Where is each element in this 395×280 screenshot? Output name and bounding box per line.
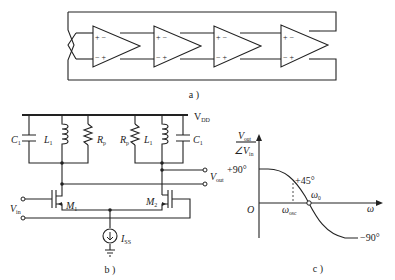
x-axis-arrow-icon (376, 200, 383, 206)
label-plus45: +45° (295, 175, 315, 186)
label-plus90: +90° (227, 164, 247, 175)
l1-left-label: L1 (43, 134, 53, 146)
omega-osc-label: ωosc (282, 204, 297, 216)
amplifier-stage-1: + − − + (93, 26, 140, 67)
vin-terminal-minus (21, 216, 25, 220)
amplifier-stage-3: + − − + (214, 26, 261, 67)
current-direction-arrow-icon (107, 232, 113, 240)
transistor-m1: M1 (21, 185, 110, 212)
m1-label: M1 (65, 200, 77, 212)
transistor-m2: M2 (21, 190, 190, 220)
vdd-label: VDD (194, 111, 211, 123)
stage-1-signs-top: + − (95, 33, 107, 42)
c1-left-label: C1 (11, 134, 21, 146)
c1-right-label: C1 (193, 134, 203, 146)
caption-c: c ) (313, 263, 323, 275)
inductor-l1-left (62, 115, 68, 163)
stage-2-signs-top: + − (156, 33, 168, 42)
l1-right-label: L1 (143, 134, 153, 146)
y-axis-arrow-icon (256, 134, 262, 141)
vout-terminal-minus (203, 182, 207, 186)
ylabel-numerator: Vout (238, 130, 252, 142)
capacitor-c1-right (176, 135, 190, 141)
amplifier-stage-2: + − − + (154, 26, 201, 67)
origin-label: O (247, 204, 254, 215)
vout-terminal-plus (203, 168, 207, 172)
feedback-wire-bottom (68, 59, 336, 80)
rp-left-label: Rp (96, 134, 106, 146)
inductor-l1-right (162, 115, 168, 163)
left-tank: C1 L1 Rp (11, 115, 106, 165)
diagram-canvas: + − − + + − − + + − − + + − − + a ) VDD (0, 0, 395, 280)
stage-3-signs-top: + − (216, 33, 228, 42)
stage-1-signs-bottom: − + (95, 53, 107, 62)
vin-terminal-plus (21, 197, 25, 201)
feedback-wire-top (68, 12, 336, 31)
phase-response-plot: Vout ∠Vin +90° +45° −90° O ω ω0 ωosc c ) (227, 130, 383, 275)
capacitor-c1-left (22, 135, 36, 141)
ring-oscillator: + − − + + − − + + − − + + − − + a ) (68, 12, 336, 101)
omega0-label: ω0 (311, 189, 321, 201)
resistor-rp-right (131, 124, 139, 145)
vout-label: Vout (210, 171, 224, 183)
stage-4-signs-bottom: − + (283, 53, 295, 62)
m2-label: M2 (145, 196, 157, 208)
crossover-wire (68, 33, 76, 59)
caption-a: a ) (189, 89, 199, 101)
xlabel: ω (367, 203, 374, 214)
stage-2-signs-bottom: − + (156, 53, 168, 62)
right-tank: Rp L1 C1 (119, 115, 203, 165)
stage-3-signs-bottom: − + (216, 53, 228, 62)
lc-oscillator-circuit: VDD C1 L1 Rp Rp L1 C1 (10, 111, 224, 276)
rp-right-label: Rp (119, 134, 129, 146)
iss-label: ISS (120, 233, 131, 245)
omega0-point (307, 201, 311, 205)
caption-b: b ) (105, 264, 116, 276)
label-minus90: −90° (360, 232, 380, 243)
stage-4-signs-top: + − (283, 33, 295, 42)
ylabel-denominator: ∠Vin (234, 145, 254, 157)
resistor-rp-left (84, 124, 92, 145)
ground-icon (105, 250, 115, 256)
vin-label: Vin (10, 203, 21, 215)
